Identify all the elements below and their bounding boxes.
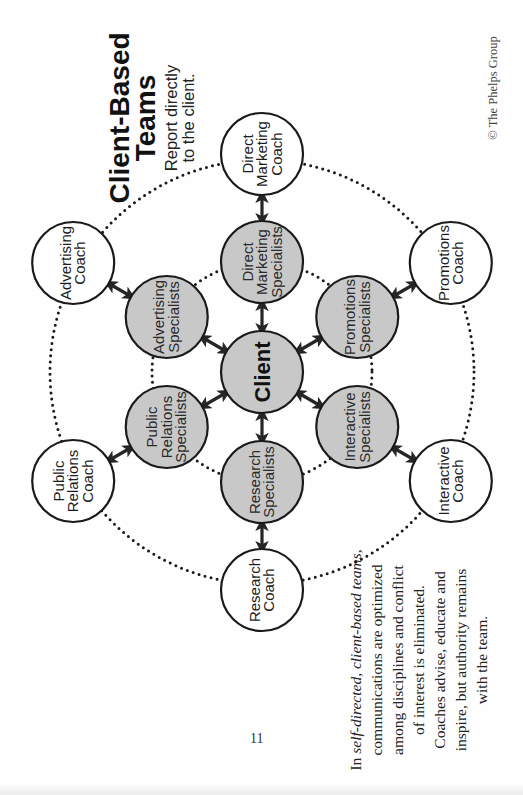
arrow-interactive-specialists-to-coach [389,446,418,463]
subtitle-line-2: to the client. [179,74,197,163]
caption-segment: Coaches advise, educate and [431,571,448,749]
public-relations-coach-node: PublicRelationsCoach [32,440,114,522]
public-relations-specialists-node: PublicRelationsSpecialists [126,386,208,468]
promotions-specialists-node-label-line: Specialists [356,281,373,353]
advertising-coach-node-label-line: Coach [71,241,88,284]
research-specialists-node-label-line: Specialists [260,446,277,518]
client-label: Client [250,341,275,403]
caption-block: In self-directed, client-based teams,com… [347,549,490,770]
caption-segment: In [347,754,364,771]
caption-line: among disciplines and conflict [389,564,406,755]
title-line-2: Teams [130,75,161,162]
subtitle-line-1: Report directly [162,64,180,171]
client-based-teams-diagram: DirectMarketingSpecialistsPromotionsSpec… [0,0,523,795]
advertising-specialists-node-label-line: Specialists [165,281,182,353]
direct-marketing-specialists-node: DirectMarketingSpecialists [221,221,303,303]
arrow-client-to-advertising-specialists [199,336,230,354]
research-coach-node-label-line: Coach [260,568,277,611]
caption-segment: among disciplines and conflict [389,564,406,755]
advertising-specialists-node: AdvertisingSpecialists [126,276,208,358]
interactive-specialists-node: InteractiveSpecialists [316,386,398,468]
arrow-promotions-specialists-to-coach [389,282,418,299]
caption-line: inspire, but authority remains [452,569,469,752]
caption-line: of interest is eliminated. [410,585,427,735]
caption-segment: with the team. [473,616,490,704]
interactive-coach-node-label-line: Coach [449,459,466,502]
rotated-book-page: DirectMarketingSpecialistsPromotionsSpec… [0,0,523,795]
caption-line: with the team. [473,616,490,704]
caption-line: Coaches advise, educate and [431,571,448,749]
arrow-client-to-interactive-specialists [294,391,325,409]
direct-marketing-specialists-node-label-line: Specialists [268,226,285,298]
scan-shadow [0,785,523,795]
copyright-block: © The Phelps Group [486,36,500,139]
caption-segment: of interest is eliminated. [410,585,427,735]
caption-segment: inspire, but authority remains [452,569,469,752]
promotions-coach-node: PromotionsCoach [410,222,492,304]
title-block: Client-Based Teams Report directly to th… [104,32,197,203]
client-node: Client [221,331,303,413]
direct-marketing-coach-node-label-line: Coach [268,132,285,175]
caption-line: communications are optimized [368,564,385,755]
promotions-coach-node-label-line: Coach [449,241,466,284]
interactive-coach-node: InteractiveCoach [410,440,492,522]
copyright: © The Phelps Group [486,36,500,139]
public-relations-coach-node-label-line: Coach [79,459,96,502]
page-number: 11 [250,731,263,747]
direct-marketing-coach-node: DirectMarketingCoach [221,113,303,195]
nodes: DirectMarketingSpecialistsPromotionsSpec… [32,113,492,631]
research-coach-node: ResearchCoach [221,549,303,631]
research-specialists-node: ResearchSpecialists [221,441,303,523]
arrow-client-to-promotions-specialists [294,336,325,354]
caption-line: In self-directed, client-based teams, [347,549,364,770]
advertising-coach-node: AdvertisingCoach [32,222,114,304]
arrow-client-to-public-relations-specialists [199,391,230,409]
public-relations-specialists-node-label-line: Specialists [172,391,189,463]
promotions-specialists-node: PromotionsSpecialists [316,276,398,358]
caption-segment: communications are optimized [368,564,385,755]
interactive-specialists-node-label-line: Specialists [356,391,373,463]
caption-italic-segment: self-directed, client-based teams, [347,549,364,753]
